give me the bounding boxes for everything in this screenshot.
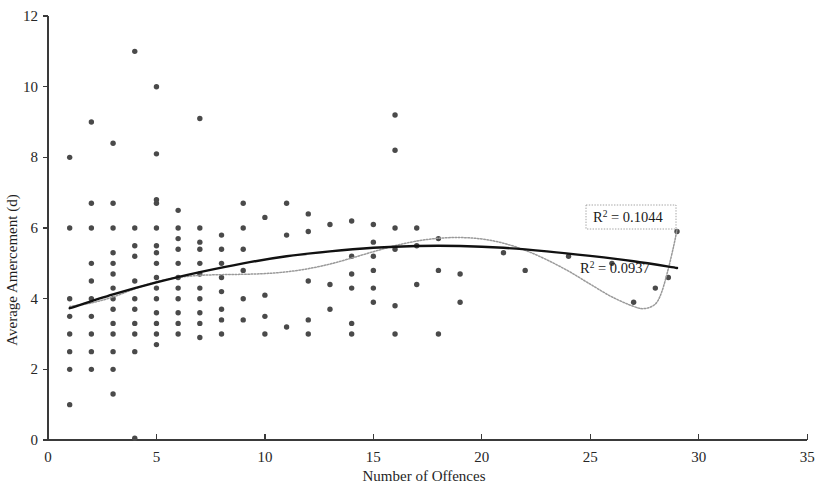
data-point (67, 367, 72, 372)
data-point (132, 436, 137, 441)
data-point (349, 285, 354, 290)
data-point (392, 148, 397, 153)
x-tick-label: 15 (366, 449, 381, 465)
data-point (67, 331, 72, 336)
data-point (175, 296, 180, 301)
y-tick-label: 4 (31, 291, 39, 307)
data-point (154, 243, 159, 248)
data-point (436, 268, 441, 273)
r2-annotation-lower: R2 = 0.0937 (580, 260, 650, 276)
data-point (327, 222, 332, 227)
data-point (392, 331, 397, 336)
data-point (371, 268, 376, 273)
data-point (132, 296, 137, 301)
data-point (154, 331, 159, 336)
data-point (154, 84, 159, 89)
data-point (175, 261, 180, 266)
data-point (154, 261, 159, 266)
data-point (262, 292, 267, 297)
data-point (306, 229, 311, 234)
data-point (89, 225, 94, 230)
data-point (349, 321, 354, 326)
data-point (154, 285, 159, 290)
data-point (67, 155, 72, 160)
data-point (414, 225, 419, 230)
data-point (284, 324, 289, 329)
data-point (89, 201, 94, 206)
data-point (154, 342, 159, 347)
data-point (371, 300, 376, 305)
data-point (154, 296, 159, 301)
data-point (89, 314, 94, 319)
x-axis-ticks (48, 434, 807, 440)
chart-canvas: 024681012 05101520253035 Average Amercem… (0, 0, 817, 488)
y-tick-label: 8 (31, 149, 39, 165)
data-point (175, 236, 180, 241)
data-point (110, 307, 115, 312)
data-point (219, 232, 224, 237)
data-point (197, 239, 202, 244)
data-point (175, 331, 180, 336)
data-point (501, 250, 506, 255)
data-point (653, 285, 658, 290)
data-point (110, 331, 115, 336)
data-points-group (67, 49, 680, 441)
data-point (67, 349, 72, 354)
y-axis-title: Average Amercement (d) (4, 194, 21, 345)
data-point (110, 225, 115, 230)
data-point (349, 218, 354, 223)
data-point (154, 275, 159, 280)
data-point (371, 239, 376, 244)
data-point (457, 271, 462, 276)
data-point (262, 331, 267, 336)
data-point (154, 197, 159, 202)
x-axis-title: Number of Offences (362, 468, 485, 484)
r2-annotation-lower-label: R2 = 0.0937 (580, 260, 650, 276)
data-point (197, 335, 202, 340)
x-tick-label: 20 (474, 449, 489, 465)
data-point (154, 151, 159, 156)
data-point (219, 307, 224, 312)
data-point (241, 225, 246, 230)
data-point (306, 331, 311, 336)
data-point (89, 278, 94, 283)
data-point (132, 254, 137, 259)
x-tick-label: 30 (691, 449, 706, 465)
data-point (197, 310, 202, 315)
data-point (175, 208, 180, 213)
data-point (327, 282, 332, 287)
data-point (110, 349, 115, 354)
data-point (262, 314, 267, 319)
data-point (132, 349, 137, 354)
data-point (175, 321, 180, 326)
data-point (110, 321, 115, 326)
data-point (219, 289, 224, 294)
data-point (327, 307, 332, 312)
x-tick-label: 5 (153, 449, 161, 465)
y-tick-label: 6 (31, 220, 39, 236)
scatter-chart-figure: 024681012 05101520253035 Average Amercem… (0, 0, 817, 488)
data-point (89, 261, 94, 266)
data-point (371, 254, 376, 259)
data-point (392, 225, 397, 230)
y-tick-label: 2 (31, 361, 39, 377)
data-point (284, 232, 289, 237)
data-point (110, 285, 115, 290)
data-point (132, 243, 137, 248)
data-point (219, 247, 224, 252)
y-tick-label: 10 (23, 79, 38, 95)
y-tick-label: 12 (23, 8, 38, 24)
data-point (522, 268, 527, 273)
data-point (306, 211, 311, 216)
y-axis-ticks (43, 16, 48, 440)
data-point (110, 250, 115, 255)
data-point (392, 112, 397, 117)
x-tick-label: 25 (583, 449, 598, 465)
data-point (371, 285, 376, 290)
data-point (89, 367, 94, 372)
x-tick-label: 35 (800, 449, 815, 465)
data-point (219, 275, 224, 280)
data-point (132, 225, 137, 230)
data-point (175, 247, 180, 252)
data-point (197, 247, 202, 252)
